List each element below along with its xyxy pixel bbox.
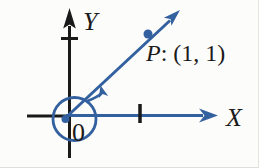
origin-label: 0 bbox=[72, 118, 85, 147]
y-axis-label: Y bbox=[83, 7, 100, 36]
trig-angle-figure: Y X 0 P: (1, 1) bbox=[0, 0, 259, 168]
point-p-label: P: (1, 1) bbox=[145, 40, 225, 66]
point-p-label-name: P bbox=[145, 40, 161, 66]
origin-dot bbox=[62, 115, 70, 123]
y-axis-arrowhead-icon bbox=[63, 8, 76, 29]
figure-canvas: Y X 0 P: (1, 1) bbox=[0, 0, 258, 167]
point-p-dot bbox=[144, 30, 153, 39]
x-axis-label: X bbox=[225, 103, 243, 132]
point-p-label-coords: : (1, 1) bbox=[161, 40, 226, 66]
